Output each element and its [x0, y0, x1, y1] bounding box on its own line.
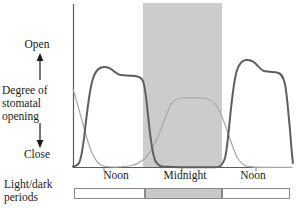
y-axis-open-label: Open — [6, 38, 68, 50]
y-axis-title: Degree of stomatal opening — [2, 84, 72, 123]
x-tick-label-noon-2: Noon — [223, 169, 283, 181]
light-dark-label-line-1: Light/dark — [4, 178, 72, 191]
y-axis-title-line-1: Degree of — [2, 84, 72, 97]
y-axis-title-line-2: stomatal — [2, 97, 72, 110]
arrow-down-icon — [37, 123, 44, 148]
figure-container: Open Degree of stomatal opening Close No… — [0, 0, 299, 208]
x-tick-label-midnight: Midnight — [148, 169, 222, 181]
y-axis-close-label: Close — [6, 148, 68, 160]
bar-segment-dark — [145, 188, 222, 199]
bar-segment-light-1 — [74, 188, 145, 199]
light-dark-periods-label: Light/dark periods — [4, 178, 72, 204]
x-tick-label-noon-1: Noon — [86, 169, 146, 181]
light-dark-label-line-2: periods — [4, 191, 72, 204]
x-axis-tick-labels: Noon Midnight Noon — [73, 169, 293, 183]
y-axis-title-line-3: opening — [2, 110, 72, 123]
light-dark-bar — [74, 188, 290, 199]
arrow-up-icon — [37, 53, 44, 80]
bar-segment-light-2 — [222, 188, 290, 199]
